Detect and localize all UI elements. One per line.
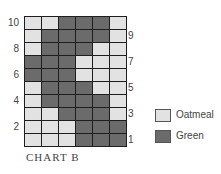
- grid-cell: [42, 69, 58, 81]
- grid-cell: [25, 134, 41, 146]
- row-label-5: 5: [128, 82, 134, 94]
- grid-cell: [76, 69, 92, 81]
- grid-cell: [110, 134, 126, 146]
- grid-cell: [110, 108, 126, 120]
- chart-grid: [24, 16, 127, 147]
- grid-cell: [42, 82, 58, 94]
- grid-cell: [93, 108, 109, 120]
- grid-cell: [93, 82, 109, 94]
- grid-cell: [76, 30, 92, 42]
- grid-cell: [42, 134, 58, 146]
- grid-cell: [25, 121, 41, 133]
- oatmeal-swatch: [155, 109, 171, 122]
- row-label-2: 2: [0, 121, 19, 133]
- grid-cell: [25, 30, 41, 42]
- grid-cell: [93, 95, 109, 107]
- row-label-9: 9: [128, 30, 134, 42]
- legend-label-green: Green: [176, 130, 204, 142]
- grid-cell: [110, 30, 126, 42]
- grid-cell: [110, 17, 126, 29]
- grid-cell: [110, 43, 126, 55]
- grid-cell: [59, 134, 75, 146]
- grid-cell: [59, 82, 75, 94]
- grid-cell: [59, 56, 75, 68]
- grid-cell: [59, 108, 75, 120]
- grid-cell: [93, 134, 109, 146]
- grid-cell: [93, 43, 109, 55]
- grid-cell: [76, 56, 92, 68]
- grid-cell: [42, 17, 58, 29]
- grid-cell: [42, 56, 58, 68]
- row-label-6: 6: [0, 69, 19, 81]
- grid-cell: [25, 95, 41, 107]
- grid-cell: [93, 69, 109, 81]
- grid-cell: [42, 43, 58, 55]
- row-label-8: 8: [0, 43, 19, 55]
- grid-cell: [110, 69, 126, 81]
- legend-label-oatmeal: Oatmeal: [176, 109, 214, 121]
- row-label-1: 1: [128, 134, 134, 146]
- grid-cell: [59, 69, 75, 81]
- row-label-10: 10: [0, 17, 19, 29]
- grid-cell: [93, 121, 109, 133]
- grid-cell: [76, 17, 92, 29]
- grid-cell: [42, 121, 58, 133]
- grid-cell: [42, 108, 58, 120]
- grid-cell: [76, 95, 92, 107]
- grid-cell: [25, 17, 41, 29]
- grid-cell: [93, 30, 109, 42]
- grid-cell: [76, 134, 92, 146]
- grid-cell: [93, 17, 109, 29]
- row-label-3: 3: [128, 108, 134, 120]
- grid-cell: [110, 82, 126, 94]
- grid-cell: [59, 30, 75, 42]
- row-label-7: 7: [128, 56, 134, 68]
- grid-cell: [110, 95, 126, 107]
- grid-cell: [59, 43, 75, 55]
- grid-cell: [93, 56, 109, 68]
- grid-cell: [59, 95, 75, 107]
- grid-cell: [25, 69, 41, 81]
- grid-cell: [59, 121, 75, 133]
- green-swatch: [155, 130, 171, 143]
- grid-cell: [76, 121, 92, 133]
- grid-cell: [76, 43, 92, 55]
- grid-cell: [110, 121, 126, 133]
- row-label-4: 4: [0, 95, 19, 107]
- chart-caption: CHART B: [26, 151, 80, 163]
- grid-cell: [25, 82, 41, 94]
- grid-cell: [110, 56, 126, 68]
- grid-cell: [25, 56, 41, 68]
- grid-cell: [76, 82, 92, 94]
- grid-cell: [25, 43, 41, 55]
- grid-cell: [76, 108, 92, 120]
- grid-cell: [59, 17, 75, 29]
- grid-cell: [42, 95, 58, 107]
- grid-cell: [25, 108, 41, 120]
- grid-cell: [42, 30, 58, 42]
